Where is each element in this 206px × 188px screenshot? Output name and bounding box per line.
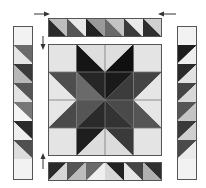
arrow-left-icon: [158, 11, 176, 17]
bottom-border-strip: [48, 162, 162, 181]
left-border-strip: [13, 26, 33, 180]
quilt-diagram: [0, 0, 206, 188]
arrow-down-icon: [40, 36, 46, 50]
arrow-right-icon: [34, 11, 50, 17]
top-border-strip: [48, 18, 162, 37]
right-border-strip: [177, 26, 197, 180]
center-star-block: [48, 44, 162, 156]
arrow-up-icon: [40, 153, 46, 169]
